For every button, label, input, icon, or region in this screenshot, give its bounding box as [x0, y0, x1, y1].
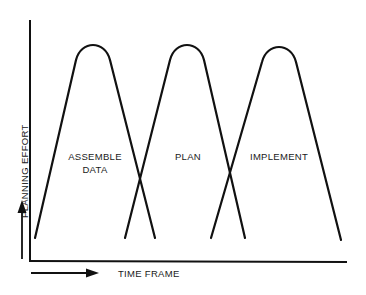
- x-axis-line: [29, 261, 347, 262]
- y-axis-label: PLANNING EFFORT: [19, 124, 30, 218]
- curve-assemble-data: [35, 45, 155, 238]
- phase-label-assemble-line2: DATA: [67, 163, 123, 176]
- curve-implement: [211, 47, 341, 240]
- curve-plan: [125, 45, 245, 238]
- phase-label-plan: PLAN: [170, 150, 206, 163]
- phase-label-assemble: ASSEMBLE DATA: [67, 150, 123, 176]
- phase-label-assemble-line1: ASSEMBLE: [67, 150, 123, 163]
- phase-label-implement: IMPLEMENT: [246, 150, 312, 163]
- phase-diagram: [0, 0, 366, 295]
- x-axis-arrow-icon: [31, 269, 99, 278]
- x-axis-label: TIME FRAME: [118, 267, 180, 280]
